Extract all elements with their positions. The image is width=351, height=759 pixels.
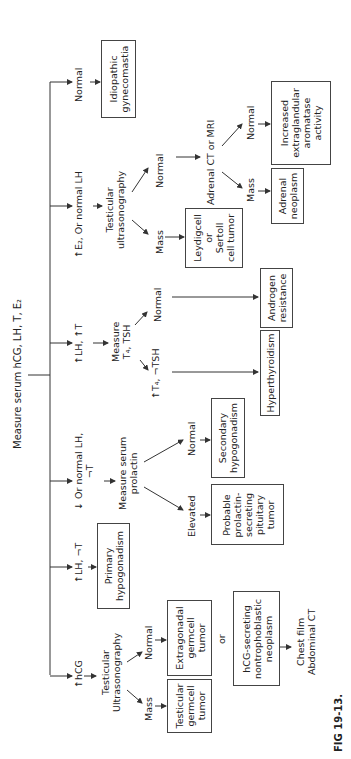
b5-mass-label: Mass [154,230,165,254]
result-line: hCG-secreting [240,605,251,672]
result-box-hcg-neoplasm: hCG-secretingnontrophoblasticneoplasm [233,591,280,686]
result-box-adrenal-neoplasm: Adrenalneoplasm [271,168,304,224]
b5-normal-label: Normal [154,154,165,188]
test-line: ultrasonography [115,171,126,249]
b1-normal-label: Normal [143,626,154,660]
follow-up-line: Abdominal CT [306,609,317,675]
b4-thyroid-label: ↑T₄, ¬TSH [150,348,161,399]
b5-adrenal-normal-label: Normal [245,106,256,140]
test-line: T₄, TSH [121,325,132,360]
result-text: Probableprolactin-secretingpituitarytumo… [220,492,275,537]
result-line: Leydigcell [192,214,203,262]
result-text: Idiopathicgynecomastia [108,46,130,113]
result-line: tumor [195,624,206,653]
result-line: Testicular [173,684,184,729]
result-text: Secondaryhypogonadism [217,403,239,473]
result-text: Primaryhypogonadism [103,531,125,601]
result-box-primary-hypogonadism: Primaryhypogonadism [97,523,130,609]
b2-condition-label: ↑LH, ¬T [73,543,84,583]
result-line: activity [312,105,323,140]
result-box-idiopathic-gynecomastia: Idiopathicgynecomastia [101,40,136,118]
result-line: Sertoll [214,223,225,254]
result-line: tumor [195,692,206,721]
b1-mass-label: Mass [143,697,154,721]
b6-condition-label: Normal [73,68,84,102]
condition-line: ¬T [84,465,95,479]
result-line: germcell [184,685,195,726]
b1-test-label: TesticularUltrasonography [100,633,122,712]
result-line: extraglandular [290,88,301,158]
result-box-testicular-germcell-tumor: Testiculargermcelltumor [167,679,212,733]
result-line: Primary [103,548,114,585]
condition-line: ↓ Or normal LH, [73,433,84,510]
b4-condition-label: ↑LH, ↑T [73,324,84,364]
result-box-leydig-sertoli-tumor: LeydigcellorSertollcell tumor [185,208,243,268]
result-line: hypogonadism [228,403,239,473]
b3-test-label: Measure serumprolactin [117,437,139,510]
result-line: neoplasm [262,615,273,661]
b5-adrenal-test-label: Adrenal CT or MRI [205,120,216,205]
result-line: resistance [277,274,288,323]
result-line: Idiopathic [108,56,119,103]
b4-normal-label: Normal [152,288,163,322]
result-line: neoplasm [288,173,299,219]
b3-normal-label: Normal [186,422,197,456]
result-line: Extragonadal [173,606,184,669]
b4-test-label: MeasureT₄, TSH [110,322,132,362]
b1-condition-label: ↑hCG [73,660,84,688]
result-line: pituitary [253,494,264,534]
b5-test-label: Testicularultrasonography [104,171,126,249]
result-line: or [203,233,214,243]
result-box-aromatase-activity: Increasedextraglandulararomataseactivity [271,81,331,165]
b5-condition-label: ↑E₂, Or normal LH [73,171,84,258]
result-line: Adrenal [277,178,288,214]
result-line: Probable [220,494,231,535]
result-line: hypogonadism [114,531,125,601]
result-line: Secondary [217,413,228,463]
result-text: hCG-secretingnontrophoblasticneoplasm [240,599,273,679]
result-line: Androgen [266,275,277,321]
result-line: cell tumor [225,214,236,262]
result-text: Androgenresistance [266,274,288,323]
test-line: Measure serum [117,437,128,510]
result-box-prolactin-tumor: Probableprolactin-secretingpituitarytumo… [211,484,284,545]
test-line: prolactin [128,453,139,495]
result-box-hyperthyroidism: Hyperthyroidism [260,330,280,416]
result-text: Extragonadalgermcelltumor [173,606,206,669]
result-box-androgen-resistance: Androgenresistance [260,268,293,328]
b5-adrenal-mass-label: Mass [245,178,256,202]
result-line: aromatase [301,98,312,149]
result-line: nontrophoblastic [251,599,262,679]
test-line: Ultrasonography [111,633,122,712]
result-text: Testiculargermcelltumor [173,684,206,729]
result-text: LeydigcellorSertollcell tumor [192,214,236,262]
test-line: Testicular [104,187,115,232]
result-line: gynecomastia [119,46,130,113]
b3-condition-label: ↓ Or normal LH,¬T [73,433,95,510]
result-text: Adrenalneoplasm [277,173,299,219]
test-line: Testicular [100,650,111,695]
result-text: Increasedextraglandulararomataseactivity [279,88,323,158]
b1-or-label: or [216,634,227,644]
figure-caption: FIG 19-13. [333,694,344,752]
result-line: germcell [184,617,195,658]
root-test-label: Measure serum hCG, LH, T, E₂ [12,299,23,449]
b1-follow-up-label: Chest filmAbdominal CT [295,609,317,675]
b3-elevated-label: Elevated [186,495,197,537]
follow-up-line: Chest film [295,618,306,666]
result-text: Hyperthyroidism [265,334,276,413]
result-box-extragonadal-tumor: Extragonadalgermcelltumor [167,600,212,676]
result-box-secondary-hypogonadism: Secondaryhypogonadism [211,398,245,478]
result-line: tumor [264,500,275,529]
result-line: secreting [242,493,253,537]
test-line: Measure [110,322,121,362]
result-line: prolactin- [231,492,242,537]
result-line: Increased [279,100,290,146]
